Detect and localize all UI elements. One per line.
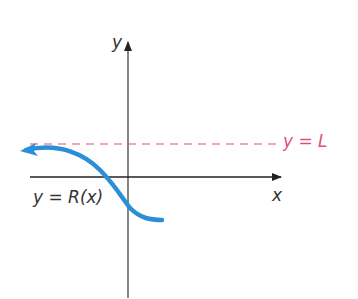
- asymptote-label: y = L: [283, 133, 328, 150]
- curve-r-of-x: [26, 148, 162, 220]
- y-axis-label: y: [112, 34, 122, 51]
- x-axis-label: x: [272, 187, 282, 204]
- curve-label: y = R(x): [33, 189, 103, 206]
